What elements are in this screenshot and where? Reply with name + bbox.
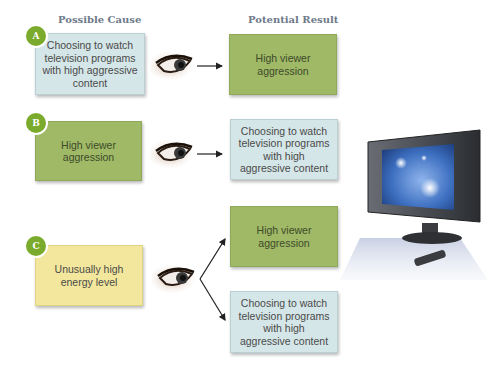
- eye-icon: [150, 51, 196, 81]
- result-box-a: High viewer aggression: [229, 34, 337, 95]
- result-box-b: Choosing to watch television programs wi…: [230, 119, 338, 180]
- television-icon: [340, 120, 489, 280]
- badge-a: A: [24, 24, 48, 48]
- result-box-c1: High viewer aggression: [230, 206, 338, 267]
- arrow-c-down: [200, 279, 225, 320]
- eye-icon: [150, 139, 196, 169]
- cause-box-a: Choosing to watch television programs wi…: [35, 33, 145, 95]
- result-box-c2: Choosing to watch television programs wi…: [230, 291, 338, 353]
- eye-icon: [152, 264, 198, 294]
- arrow-c-up: [200, 239, 225, 279]
- cause-box-c: Unusually high energy level: [35, 245, 143, 306]
- cause-box-b: High viewer aggression: [35, 121, 142, 181]
- badge-c: C: [24, 234, 48, 258]
- badge-b: B: [24, 111, 48, 135]
